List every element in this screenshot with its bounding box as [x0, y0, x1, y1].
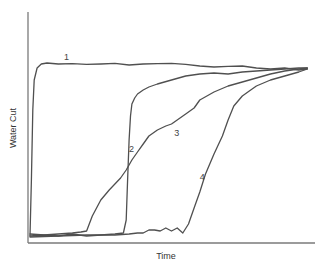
- curves-group: [30, 63, 307, 237]
- curve-label-3: 3: [174, 128, 179, 138]
- curve-2: [30, 68, 307, 236]
- y-axis-label: Water Cut: [8, 107, 18, 148]
- curve-1: [30, 63, 307, 236]
- x-axis-label: Time: [156, 251, 176, 261]
- curve-label-4: 4: [200, 172, 205, 182]
- curve-3: [30, 68, 307, 235]
- curve-label-2: 2: [129, 144, 134, 154]
- curve-4: [30, 69, 307, 237]
- curve-label-1: 1: [64, 52, 69, 62]
- curve-labels-group: 1234: [64, 52, 205, 182]
- water-cut-chart: 1234 Time Water Cut: [0, 0, 327, 272]
